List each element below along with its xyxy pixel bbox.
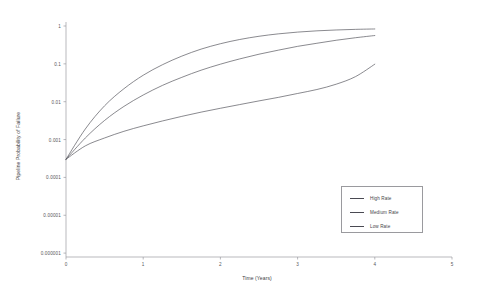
data-series-group [66, 29, 375, 159]
y-tick-label: 0.0001 [46, 175, 61, 180]
legend-line-swatch [350, 198, 364, 199]
y-tick-label: 0.1 [54, 61, 61, 66]
chart-legend: High RateMedium RateLow Rate [341, 186, 423, 233]
x-tick-label: 4 [373, 262, 376, 267]
legend-item[interactable]: High Rate [342, 192, 424, 204]
legend-label: Low Rate [370, 224, 390, 229]
x-tick-label: 0 [65, 262, 68, 267]
series-line-2 [66, 64, 375, 159]
legend-line-swatch [350, 212, 364, 213]
x-tick-label: 1 [142, 262, 145, 267]
x-tick-marks [66, 257, 452, 260]
series-line-1 [66, 36, 375, 160]
y-tick-label: 0.001 [49, 137, 61, 142]
legend-line-swatch [350, 226, 364, 227]
chart-figure: 10.10.010.0010.00010.000010.000001 01234… [0, 0, 479, 293]
x-tick-label: 2 [219, 262, 222, 267]
legend-item[interactable]: Medium Rate [342, 206, 424, 218]
plot-area [0, 0, 479, 293]
y-axis-title: Pipeline Probability of Failure [15, 112, 21, 180]
y-tick-label: 0.00001 [43, 213, 61, 218]
legend-label: Medium Rate [370, 210, 399, 215]
legend-label: High Rate [370, 196, 392, 201]
y-tick-label: 0.01 [51, 99, 61, 104]
series-line-0 [66, 29, 375, 159]
x-axis-title: Time (Years) [242, 275, 272, 281]
x-tick-label: 5 [451, 262, 454, 267]
y-tick-marks [64, 26, 67, 253]
y-tick-label: 1 [58, 24, 61, 29]
legend-item[interactable]: Low Rate [342, 220, 424, 232]
y-tick-label: 0.000001 [41, 251, 61, 256]
x-tick-label: 3 [296, 262, 299, 267]
